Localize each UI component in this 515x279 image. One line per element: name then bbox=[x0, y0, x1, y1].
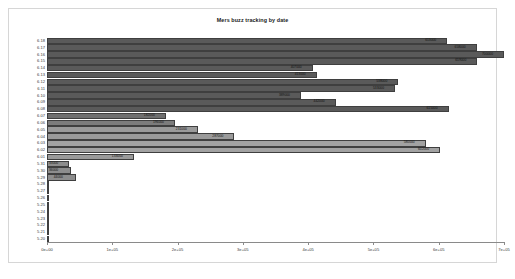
bar-row: 6.13413000 bbox=[47, 72, 504, 79]
bar-row: 5.28 bbox=[47, 181, 504, 188]
bar bbox=[47, 188, 49, 195]
x-axis-tick-label: 0e+00 bbox=[41, 247, 53, 252]
y-axis-tick-label: 6.16 bbox=[37, 52, 45, 56]
bar bbox=[47, 58, 477, 65]
y-axis-tick-label: 6.13 bbox=[37, 73, 45, 77]
bar-row: 5.2944000 bbox=[47, 174, 504, 181]
x-axis-tick bbox=[373, 242, 374, 245]
bar bbox=[47, 106, 449, 113]
bar bbox=[47, 202, 49, 209]
chart-title: Mers buzz tracking by date bbox=[9, 17, 496, 23]
x-axis-tick bbox=[243, 242, 244, 245]
bar-value-label: 580000 bbox=[404, 142, 415, 145]
x-axis-tick bbox=[178, 242, 179, 245]
x-axis-tick-label: 4e+05 bbox=[302, 247, 314, 252]
y-axis-tick-label: 5.24 bbox=[37, 210, 45, 214]
y-axis-tick-label: 6.15 bbox=[37, 59, 45, 63]
y-axis-tick-label: 6.14 bbox=[37, 66, 45, 70]
bar-value-label: 182000 bbox=[144, 114, 155, 117]
bar-row: 5.3036000 bbox=[47, 167, 504, 174]
y-axis-tick-label: 5.27 bbox=[37, 189, 45, 193]
bar bbox=[47, 85, 395, 92]
y-axis-tick-label: 6.09 bbox=[37, 100, 45, 104]
bar bbox=[47, 65, 313, 72]
bar-row: 6.04287000 bbox=[47, 133, 504, 140]
y-axis-tick-label: 5.26 bbox=[37, 196, 45, 200]
bar-value-label: 407000 bbox=[291, 67, 302, 70]
x-axis-tick-label: 5e+05 bbox=[368, 247, 380, 252]
x-axis-tick-label: 1e+05 bbox=[107, 247, 119, 252]
bar-row: 6.10389000 bbox=[47, 92, 504, 99]
bar bbox=[47, 208, 49, 215]
y-axis-tick-label: 6.12 bbox=[37, 80, 45, 84]
bar bbox=[47, 99, 336, 106]
bar-row: 6.02602000 bbox=[47, 147, 504, 154]
bar bbox=[47, 44, 477, 51]
bar-row: 6.06196000 bbox=[47, 120, 504, 127]
x-axis-tick bbox=[308, 242, 309, 245]
bar-row: 5.26 bbox=[47, 195, 504, 202]
y-axis-tick-label: 6.02 bbox=[37, 148, 45, 152]
bar-value-label: 700000 bbox=[482, 53, 493, 56]
plot-area: 6.186130006.176580006.167000006.15659000… bbox=[39, 37, 506, 242]
bar-row: 6.14407000 bbox=[47, 65, 504, 72]
bar bbox=[47, 92, 301, 99]
bar bbox=[47, 147, 440, 154]
bar-row: 5.24 bbox=[47, 208, 504, 215]
x-axis-tick-label: 7e+05 bbox=[498, 247, 510, 252]
bar-value-label: 533000 bbox=[373, 87, 384, 90]
y-axis-tick-label: 5.30 bbox=[37, 169, 45, 173]
bar-row: 6.12538000 bbox=[47, 79, 504, 86]
bar bbox=[47, 229, 49, 236]
bar-value-label: 613000 bbox=[425, 39, 436, 42]
y-axis-tick-label: 5.22 bbox=[37, 223, 45, 227]
bar-row: 6.17658000 bbox=[47, 44, 504, 51]
bar-value-label: 44000 bbox=[54, 176, 63, 179]
bar bbox=[47, 51, 504, 58]
bar-value-label: 389000 bbox=[279, 94, 290, 97]
bar-row: 5.21 bbox=[47, 229, 504, 236]
bar-row: 6.05231000 bbox=[47, 126, 504, 133]
y-axis-tick-label: 5.28 bbox=[37, 182, 45, 186]
bar-row: 6.01133000 bbox=[47, 154, 504, 161]
bar-row: 6.07182000 bbox=[47, 113, 504, 120]
bar-value-label: 287000 bbox=[212, 135, 223, 138]
y-axis-tick-label: 6.01 bbox=[37, 155, 45, 159]
y-axis-tick-label: 6.07 bbox=[37, 114, 45, 118]
bar bbox=[47, 215, 49, 222]
bar-row: 6.15659000 bbox=[47, 58, 504, 65]
y-axis-tick-label: 6.06 bbox=[37, 121, 45, 125]
bar-value-label: 538000 bbox=[376, 80, 387, 83]
bar-row: 6.11533000 bbox=[47, 85, 504, 92]
x-axis-tick-label: 2e+05 bbox=[172, 247, 184, 252]
bar-row: 5.27 bbox=[47, 188, 504, 195]
bar bbox=[47, 195, 49, 202]
y-axis-tick-label: 5.25 bbox=[37, 203, 45, 207]
x-axis-tick-label: 6e+05 bbox=[433, 247, 445, 252]
bar-row: 5.25 bbox=[47, 202, 504, 209]
y-axis-tick-label: 5.29 bbox=[37, 175, 45, 179]
bar bbox=[47, 222, 49, 229]
bar-row: 5.23 bbox=[47, 215, 504, 222]
x-axis-tick bbox=[47, 242, 48, 245]
bar bbox=[47, 79, 398, 86]
y-axis-tick-label: 5.20 bbox=[37, 237, 45, 241]
bar bbox=[47, 133, 234, 140]
bar-value-label: 442000 bbox=[314, 101, 325, 104]
bar-value-label: 413000 bbox=[295, 73, 306, 76]
bar bbox=[47, 72, 317, 79]
bar-value-label: 196000 bbox=[153, 121, 164, 124]
bar-row: 5.3133000 bbox=[47, 161, 504, 168]
bar-row: 6.03580000 bbox=[47, 140, 504, 147]
bar-value-label: 33000 bbox=[49, 162, 58, 165]
x-axis: 0e+001e+052e+053e+054e+055e+056e+057e+05 bbox=[47, 242, 504, 243]
bar-row: 6.08615000 bbox=[47, 106, 504, 113]
bar bbox=[47, 38, 447, 45]
y-axis-tick-label: 6.03 bbox=[37, 141, 45, 145]
y-axis-tick-label: 5.31 bbox=[37, 162, 45, 166]
bar-row: 5.22 bbox=[47, 222, 504, 229]
bar-value-label: 36000 bbox=[49, 169, 58, 172]
y-axis-tick-label: 6.08 bbox=[37, 107, 45, 111]
bar-row: 6.09442000 bbox=[47, 99, 504, 106]
y-axis-tick-label: 5.21 bbox=[37, 230, 45, 234]
